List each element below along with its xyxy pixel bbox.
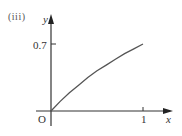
x-axis-label: x <box>166 114 171 125</box>
x-tick-label: 1 <box>141 114 147 125</box>
data-curve <box>51 44 143 111</box>
y-tick-label: 0.7 <box>33 40 47 51</box>
y-axis-label: y <box>43 14 48 25</box>
y-axis-arrow-icon <box>48 14 54 24</box>
chart-svg <box>0 0 182 136</box>
origin-label: O <box>38 114 46 125</box>
